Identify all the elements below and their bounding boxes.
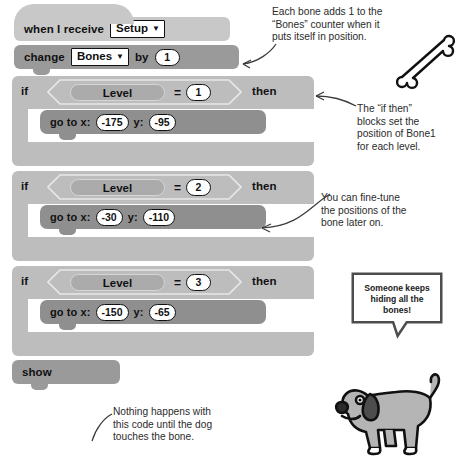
- change-variable-block[interactable]: change Bones ▼ by 1: [14, 45, 239, 69]
- show-block[interactable]: show: [12, 360, 120, 384]
- annotation-bottom: Nothing happens with this code until the…: [113, 406, 258, 444]
- y-label-3: y:: [134, 306, 144, 318]
- equals-sign-1: =: [174, 86, 181, 100]
- chevron-down-icon: ▼: [152, 25, 160, 33]
- block-notch: [59, 133, 76, 140]
- annotation-fine-tune: You can fine-tune the positions of the b…: [321, 192, 453, 230]
- block-notch: [59, 228, 76, 235]
- equals-condition-2[interactable]: Level = 2: [47, 174, 242, 200]
- equals-sign-3: =: [174, 276, 181, 290]
- hat-block-curve: [14, 4, 134, 24]
- message-dropdown-value: Setup: [116, 22, 148, 35]
- go-to-x-label-2: go to x:: [50, 211, 91, 223]
- equals-sign-2: =: [174, 181, 181, 195]
- compare-value-input-2[interactable]: 2: [186, 179, 211, 196]
- when-i-receive-label: when I receive: [24, 23, 104, 35]
- compare-value-input-1[interactable]: 1: [186, 84, 211, 101]
- go-to-xy-block-1[interactable]: go to x: -175 y: -95: [40, 110, 266, 134]
- show-label: show: [22, 366, 52, 378]
- chevron-down-icon: ▼: [116, 53, 124, 61]
- change-label: change: [24, 51, 65, 63]
- equals-operator-group-1: = 1: [174, 84, 211, 101]
- y-input-3[interactable]: -65: [149, 304, 176, 321]
- then-label-2: then: [252, 180, 277, 192]
- then-label-1: then: [252, 85, 277, 97]
- if-label-2: if: [21, 180, 28, 192]
- variable-reporter-1[interactable]: Level: [70, 84, 165, 101]
- annotation-if-then: The “if then” blocks set the position of…: [357, 103, 455, 153]
- when-i-receive-block[interactable]: when I receive Setup ▼: [14, 17, 230, 41]
- variable-dropdown[interactable]: Bones ▼: [71, 48, 129, 66]
- equals-condition-1[interactable]: Level = 1: [47, 79, 242, 105]
- x-input-1[interactable]: -175: [96, 114, 129, 131]
- go-to-x-label-3: go to x:: [50, 306, 91, 318]
- block-notch: [59, 323, 76, 330]
- speech-bubble: Someone keeps hiding all the bones!: [348, 271, 446, 343]
- y-label-1: y:: [134, 116, 144, 128]
- y-input-2[interactable]: -110: [143, 209, 175, 226]
- speech-line-1: Someone keeps: [348, 283, 446, 294]
- block-notch: [33, 68, 50, 75]
- equals-operator-group-2: = 2: [174, 179, 211, 196]
- block-notch: [31, 383, 48, 390]
- y-label-2: y:: [128, 211, 138, 223]
- go-to-xy-block-3[interactable]: go to x: -150 y: -65: [40, 300, 266, 324]
- x-input-3[interactable]: -150: [96, 304, 129, 321]
- variable-reporter-2[interactable]: Level: [70, 179, 165, 196]
- equals-operator-group-3: = 3: [174, 274, 211, 291]
- by-label: by: [135, 51, 149, 63]
- x-input-2[interactable]: -30: [96, 209, 123, 226]
- if-then-block-1[interactable]: if Level = 1 then go to x: -175 y: -95: [12, 76, 314, 166]
- go-to-xy-block-2[interactable]: go to x: -30 y: -110: [40, 205, 266, 229]
- then-label-3: then: [252, 275, 277, 287]
- speech-bubble-text: Someone keeps hiding all the bones!: [348, 283, 446, 316]
- if-then-block-2[interactable]: if Level = 2 then go to x: -30 y: -110: [12, 171, 314, 261]
- variable-reporter-3[interactable]: Level: [70, 274, 165, 291]
- speech-line-3: bones!: [348, 305, 446, 316]
- compare-value-input-3[interactable]: 3: [186, 274, 211, 291]
- if-then-block-3[interactable]: if Level = 3 then go to x: -150 y: -65: [12, 266, 314, 356]
- if-label-3: if: [21, 275, 28, 287]
- dog-sprite: [334, 372, 454, 456]
- y-input-1[interactable]: -95: [149, 114, 176, 131]
- speech-line-2: hiding all the: [348, 294, 446, 305]
- bone-sprite: [396, 34, 457, 90]
- change-amount-input[interactable]: 1: [155, 49, 180, 66]
- go-to-x-label-1: go to x:: [50, 116, 91, 128]
- if-label-1: if: [21, 85, 28, 97]
- scratch-script-illustration: when I receive Setup ▼ change Bones ▼ by…: [0, 0, 457, 457]
- variable-dropdown-value: Bones: [77, 50, 112, 63]
- equals-condition-3[interactable]: Level = 3: [47, 269, 242, 295]
